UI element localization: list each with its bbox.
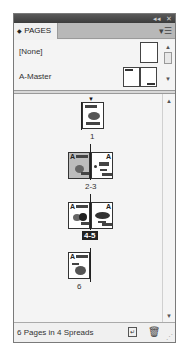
tab-label: PAGES bbox=[24, 26, 51, 35]
image-blob bbox=[95, 212, 110, 219]
panel-titlebar[interactable]: ◂◂ ✕ bbox=[14, 14, 175, 23]
footer-bar bbox=[81, 172, 89, 175]
page-count-status: 6 Pages in 4 Spreads bbox=[17, 328, 94, 337]
scroll-down-icon[interactable]: ▼ bbox=[166, 313, 172, 319]
page-thumbnail[interactable]: A bbox=[91, 202, 113, 229]
master-prefix: A bbox=[106, 203, 111, 211]
tab-pages[interactable]: ◆ PAGES bbox=[14, 23, 58, 39]
pages-panel: ◂◂ ✕ ◆ PAGES ▾☰ [None] A-Master ▲ ▼ bbox=[13, 13, 176, 343]
tab-row: ◆ PAGES ▾☰ bbox=[14, 23, 175, 39]
header-bar bbox=[76, 255, 88, 258]
image-blob bbox=[75, 266, 86, 275]
spread-2-3[interactable]: A A 2-3 bbox=[14, 144, 162, 194]
pages-section: ▼ 1 A A 2- bbox=[14, 94, 175, 323]
master-prefix: A bbox=[70, 153, 75, 161]
spread-label: 1 bbox=[90, 132, 94, 141]
text-line bbox=[100, 169, 107, 171]
footer-bar bbox=[81, 222, 89, 225]
page-thumbnail[interactable]: A bbox=[68, 152, 90, 179]
footer-bar bbox=[147, 83, 155, 85]
master-label: [None] bbox=[19, 47, 43, 56]
footer-bar bbox=[86, 122, 100, 125]
dot bbox=[94, 165, 97, 168]
collapse-icon[interactable]: ◂◂ bbox=[153, 14, 161, 23]
scroll-up-icon[interactable]: ▲ bbox=[165, 44, 171, 50]
scroll-up-icon[interactable]: ▲ bbox=[166, 98, 172, 104]
page-thumbnail[interactable] bbox=[82, 102, 104, 129]
scroll-thumb[interactable] bbox=[164, 52, 172, 64]
master-prefix: A bbox=[70, 203, 75, 211]
page-thumbnail[interactable]: A bbox=[91, 152, 113, 179]
master-label: A-Master bbox=[19, 72, 51, 81]
tab-toggle-icon: ◆ bbox=[17, 28, 22, 34]
master-thumbnail[interactable] bbox=[140, 42, 158, 63]
spread-label: 2-3 bbox=[85, 182, 97, 191]
master-none[interactable]: [None] bbox=[14, 40, 162, 64]
footer-bar bbox=[102, 223, 112, 226]
footer-bar bbox=[102, 173, 112, 176]
masters-scrollbar[interactable]: ▲ ▼ bbox=[162, 40, 174, 90]
image-blob bbox=[88, 112, 100, 120]
panel-footer: 6 Pages in 4 Spreads ↵ 🗑 ⋰ bbox=[14, 322, 175, 342]
header-bar bbox=[125, 69, 133, 71]
close-icon[interactable]: ✕ bbox=[166, 14, 172, 23]
spread-spine bbox=[90, 248, 91, 282]
resize-grip-icon[interactable]: ⋰ bbox=[166, 333, 173, 341]
master-prefix: A bbox=[70, 253, 75, 261]
panel-menu-icon[interactable]: ▾☰ bbox=[159, 26, 172, 36]
pages-scrollbar[interactable]: ▲ ▼ bbox=[162, 94, 174, 323]
image-blob bbox=[79, 213, 87, 221]
header-bar bbox=[76, 205, 88, 208]
page-thumbnail[interactable]: A bbox=[68, 202, 90, 229]
page-thumbnail[interactable]: A bbox=[68, 252, 90, 279]
spread-1[interactable]: ▼ 1 bbox=[14, 94, 162, 144]
spread-label: 4-5 bbox=[82, 231, 98, 240]
master-a[interactable]: A-Master bbox=[14, 64, 162, 90]
header-bar bbox=[76, 155, 88, 158]
masters-section: [None] A-Master ▲ ▼ bbox=[14, 40, 175, 90]
master-prefix: A bbox=[106, 153, 111, 161]
new-page-icon[interactable]: ↵ bbox=[128, 327, 137, 337]
master-thumbnail-left[interactable] bbox=[123, 67, 140, 87]
text-block bbox=[99, 162, 109, 166]
spread-4-5[interactable]: A A 4-5 bbox=[14, 194, 162, 244]
spread-6[interactable]: A 6 bbox=[14, 244, 162, 294]
spread-label: 6 bbox=[77, 282, 81, 291]
master-thumbnail-right[interactable] bbox=[140, 67, 157, 87]
scroll-down-icon[interactable]: ▼ bbox=[165, 76, 171, 82]
header-bar bbox=[85, 105, 97, 108]
trash-icon[interactable]: 🗑 bbox=[148, 326, 161, 337]
text-line bbox=[72, 263, 79, 265]
